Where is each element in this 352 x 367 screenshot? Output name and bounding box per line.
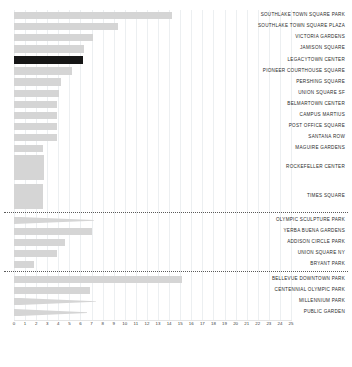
plot-area: SOUTHLAKE TOWN SQUARE PARKSOUTHLAKE TOWN… xyxy=(0,0,352,367)
bar xyxy=(14,67,72,74)
x-tick-23: 23 xyxy=(266,322,271,326)
bar xyxy=(14,145,43,152)
bar xyxy=(14,228,92,235)
x-tick-21: 21 xyxy=(244,322,249,326)
row-label: PERSHING SQUARE xyxy=(296,80,345,85)
x-tick-6: 6 xyxy=(79,322,81,326)
x-tick-8: 8 xyxy=(101,322,103,326)
row-label: CENTENNIAL OLYMPIC PARK xyxy=(275,288,345,293)
x-tick-16: 16 xyxy=(189,322,194,326)
x-tick-12: 12 xyxy=(145,322,150,326)
row-label: MILLENNIUM PARK xyxy=(299,299,345,304)
bar xyxy=(14,12,172,19)
bar xyxy=(14,112,57,119)
row-label: JAMISON SQUARE xyxy=(300,46,345,51)
x-tick-13: 13 xyxy=(156,322,161,326)
row-label: SOUTHLAKE TOWN SQUARE PARK xyxy=(261,13,345,18)
bar xyxy=(14,34,93,41)
bar xyxy=(14,155,44,180)
x-tick-2: 2 xyxy=(35,322,37,326)
bar xyxy=(14,78,61,85)
row-label: PUBLIC GARDEN xyxy=(304,310,345,315)
x-tick-18: 18 xyxy=(211,322,216,326)
row-label: PIONEER COURTHOUSE SQUARE xyxy=(263,69,345,74)
row-label: BELLEVUE DOWNTOWN PARK xyxy=(272,277,345,282)
x-tick-14: 14 xyxy=(167,322,172,326)
bar xyxy=(14,250,57,257)
bar-wedge xyxy=(14,298,96,305)
row-label: SOUTHLAKE TOWN SQUARE PLAZA xyxy=(258,24,345,29)
row-label: SANTANA ROW xyxy=(308,135,345,140)
row-label: YERBA BUENA GARDENS xyxy=(284,229,345,234)
bar-chart: SOUTHLAKE TOWN SQUARE PARKSOUTHLAKE TOWN… xyxy=(0,0,352,367)
bar xyxy=(14,101,57,108)
bar xyxy=(14,184,43,209)
x-tick-4: 4 xyxy=(57,322,59,326)
bar xyxy=(14,239,65,246)
x-axis-line xyxy=(14,320,292,321)
row-label: LEGACYTOWN CENTER xyxy=(287,58,345,63)
x-tick-20: 20 xyxy=(233,322,238,326)
group-divider xyxy=(4,271,348,272)
x-tick-0: 0 xyxy=(13,322,15,326)
x-tick-1: 1 xyxy=(24,322,26,326)
x-tick-17: 17 xyxy=(200,322,205,326)
row-label: ADDISON CIRCLE PARK xyxy=(287,240,345,245)
row-label: MAGUIRE GARDENS xyxy=(295,146,345,151)
x-tick-25: 25 xyxy=(289,322,294,326)
bar-highlighted xyxy=(14,56,83,63)
x-tick-3: 3 xyxy=(46,322,48,326)
row-label: OLYMPIC SCULPTURE PARK xyxy=(276,218,345,223)
bar xyxy=(14,287,90,294)
bar xyxy=(14,261,34,268)
row-label: ROCKEFELLER CENTER xyxy=(286,165,345,170)
bar xyxy=(14,276,182,283)
bar xyxy=(14,23,118,30)
row-label: POST OFFICE SQUARE xyxy=(289,124,345,129)
row-label: CAMPUS MARTIUS xyxy=(300,113,345,118)
bar xyxy=(14,45,84,52)
bar-wedge xyxy=(14,309,87,316)
row-label: UNION SQUARE NY xyxy=(298,251,345,256)
bar xyxy=(14,134,57,141)
x-tick-22: 22 xyxy=(255,322,260,326)
x-tick-9: 9 xyxy=(112,322,114,326)
row-label: TIMES SQUARE xyxy=(307,194,345,199)
x-tick-15: 15 xyxy=(178,322,183,326)
x-axis: 0123456789101112131415161718192021222324… xyxy=(0,322,352,336)
x-tick-5: 5 xyxy=(68,322,70,326)
row-label: BELMARTOWN CENTER xyxy=(287,102,345,107)
bar xyxy=(14,90,59,97)
row-label: UNION SQUARE SF xyxy=(298,91,345,96)
x-tick-19: 19 xyxy=(222,322,227,326)
x-tick-10: 10 xyxy=(122,322,127,326)
bar xyxy=(14,123,57,130)
x-tick-7: 7 xyxy=(90,322,92,326)
x-tick-11: 11 xyxy=(134,322,139,326)
row-label: VICTORIA GARDENS xyxy=(295,35,345,40)
x-tick-24: 24 xyxy=(277,322,282,326)
row-label: BRYANT PARK xyxy=(310,262,345,267)
group-divider xyxy=(4,212,348,213)
bar-wedge xyxy=(14,217,94,224)
